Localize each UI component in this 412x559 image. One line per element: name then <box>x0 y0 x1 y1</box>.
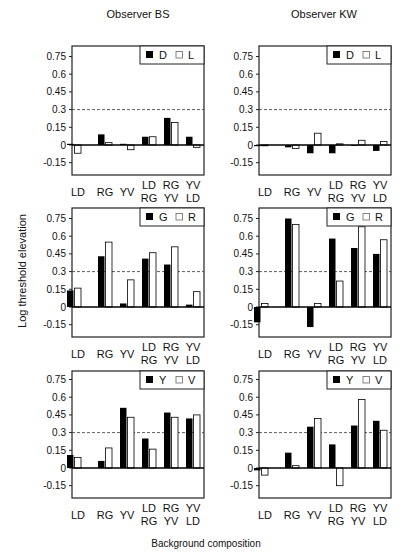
x-tick-label: YV <box>186 502 201 514</box>
bar-v <box>75 457 82 468</box>
bar-r <box>150 253 157 307</box>
bar-y <box>164 413 171 468</box>
bar-y <box>186 418 193 468</box>
x-tick-label: LD <box>142 502 156 514</box>
x-tick-label: RG <box>97 186 114 198</box>
y-tick-label: 0.3 <box>239 427 253 438</box>
y-tick-label: 0.45 <box>234 409 254 420</box>
x-tick-label: RG <box>350 179 367 191</box>
x-tick-label: YV <box>164 354 179 366</box>
x-tick-label: YV <box>351 515 366 527</box>
y-tick-label: 0.3 <box>52 104 66 115</box>
y-tick-label: 0.15 <box>47 284 67 295</box>
bar-v <box>337 468 344 486</box>
bar-y <box>329 444 336 468</box>
legend-label: L <box>375 49 381 61</box>
chart-panel-bs-yv: 0.750.60.450.30.150-0.15YVLDRGYVLDRGRGYV… <box>43 371 204 527</box>
bar-l <box>315 133 322 145</box>
legend-label: D <box>346 49 354 61</box>
bar-d <box>142 137 149 145</box>
x-tick-label: YV <box>373 179 388 191</box>
bar-y <box>120 408 127 468</box>
legend-open-swatch-icon <box>363 377 370 384</box>
legend-label: L <box>188 49 194 61</box>
bar-y <box>351 426 358 468</box>
x-tick-label: LD <box>329 502 343 514</box>
legend-open-swatch-icon <box>176 377 183 384</box>
x-tick-label: RG <box>328 515 345 527</box>
x-tick-label: RG <box>163 341 180 353</box>
bar-l <box>128 145 135 150</box>
y-tick-label: 0.6 <box>239 231 253 242</box>
x-tick-label: YV <box>120 186 135 198</box>
y-tick-label: 0.3 <box>52 266 66 277</box>
bar-v <box>359 400 366 468</box>
legend-filled-swatch-icon <box>146 376 153 383</box>
x-tick-label: LD <box>258 348 272 360</box>
y-tick-label: 0.75 <box>234 51 254 62</box>
x-tick-label: LD <box>258 509 272 521</box>
bar-v <box>172 417 179 468</box>
y-tick-label: 0.75 <box>47 51 67 62</box>
bar-v <box>381 430 388 468</box>
x-tick-label: LD <box>258 186 272 198</box>
legend-label: R <box>188 211 196 223</box>
y-tick-label: 0.75 <box>47 213 67 224</box>
x-tick-label: RG <box>284 186 301 198</box>
x-tick-label: LD <box>186 192 200 204</box>
y-tick-label: 0 <box>60 140 66 151</box>
bar-l <box>172 123 179 145</box>
x-tick-label: LD <box>142 341 156 353</box>
x-tick-label: YV <box>164 192 179 204</box>
x-tick-label: RG <box>141 192 158 204</box>
x-tick-label: RG <box>284 348 301 360</box>
x-tick-label: YV <box>351 192 366 204</box>
x-tick-label: RG <box>97 509 114 521</box>
bar-r <box>172 247 179 307</box>
bar-v <box>262 468 269 475</box>
y-tick-label: 0.15 <box>234 122 254 133</box>
legend-open-swatch-icon <box>176 214 183 221</box>
bar-r <box>337 281 344 307</box>
bar-d <box>307 145 314 153</box>
y-tick-label: 0.45 <box>47 409 67 420</box>
x-tick-label: LD <box>186 354 200 366</box>
y-tick-label: 0.6 <box>52 69 66 80</box>
bar-g <box>329 239 336 307</box>
chart-panel-bs-dl: 0.750.60.450.30.150-0.15DLLDRGYVLDRGRGYV… <box>43 46 204 204</box>
y-tick-label: 0.75 <box>47 374 67 385</box>
bar-d <box>98 134 105 145</box>
legend-label: V <box>188 374 196 386</box>
bar-y <box>307 427 314 468</box>
x-tick-label: YV <box>307 348 322 360</box>
y-tick-label: 0.75 <box>234 374 254 385</box>
bar-l <box>150 137 157 145</box>
figure: Observer BS Observer KW Log threshold el… <box>0 0 412 559</box>
y-tick-label: 0.15 <box>234 284 254 295</box>
legend-open-swatch-icon <box>176 52 183 59</box>
bar-y <box>285 453 292 468</box>
y-tick-label: 0.3 <box>239 104 253 115</box>
legend-filled-swatch-icon <box>146 213 153 220</box>
bar-y <box>373 421 380 468</box>
plot-frame <box>259 208 391 337</box>
bar-v <box>315 418 322 468</box>
y-tick-label: 0.6 <box>52 231 66 242</box>
x-tick-label: YV <box>373 502 388 514</box>
bar-y <box>67 455 74 468</box>
x-tick-label: YV <box>307 509 322 521</box>
bar-d <box>164 118 171 145</box>
bar-l <box>75 145 82 153</box>
y-tick-label: -0.15 <box>43 319 66 330</box>
legend-filled-swatch-icon <box>333 213 340 220</box>
bar-g <box>351 248 358 307</box>
bar-r <box>359 227 366 307</box>
x-tick-label: RG <box>284 509 301 521</box>
x-tick-label: LD <box>71 186 85 198</box>
legend-label: R <box>375 211 383 223</box>
y-tick-label: 0 <box>60 463 66 474</box>
bar-r <box>194 292 201 307</box>
legend-label: G <box>159 211 168 223</box>
y-tick-label: 0 <box>60 302 66 313</box>
y-tick-label: -0.15 <box>230 319 253 330</box>
